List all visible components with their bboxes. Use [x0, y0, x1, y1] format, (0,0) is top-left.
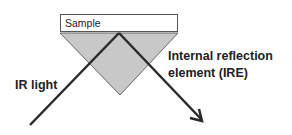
ire-label-line1: Internal reflection — [168, 49, 273, 64]
ire-prism — [60, 33, 178, 95]
ire-label-line2: element (IRE) — [168, 66, 248, 81]
sample-box: Sample — [60, 14, 178, 32]
ir-light-label: IR light — [15, 78, 57, 93]
